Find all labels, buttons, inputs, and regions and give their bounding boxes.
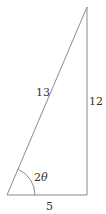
triangle-diagram: 13 12 5 2θ [0, 0, 106, 214]
base-label: 5 [46, 200, 53, 213]
angle-arc [18, 169, 35, 195]
theta-symbol: θ [41, 171, 48, 184]
right-triangle [7, 7, 87, 195]
angle-label: 2θ [34, 171, 48, 184]
vertical-leg-label: 12 [89, 95, 103, 108]
hypotenuse-label: 13 [36, 86, 50, 99]
angle-coefficient: 2 [34, 171, 41, 184]
